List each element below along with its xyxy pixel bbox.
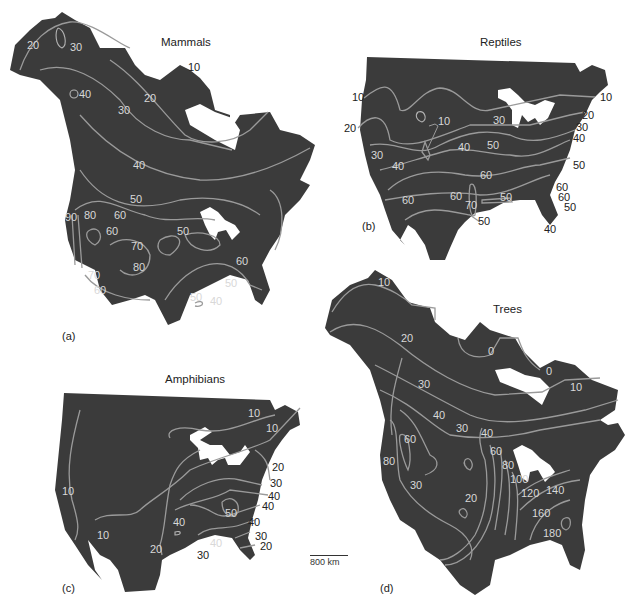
contour-label: 40 (433, 410, 445, 421)
panel-reptiles: Reptiles 10 10 20 10 30 20 30 40 30 40 4… (330, 30, 638, 270)
contour-label: 60 (404, 434, 416, 445)
contour-label: 50 (225, 508, 237, 519)
scale-bar-label: 800 km (310, 557, 350, 567)
contour-label: 20 (344, 123, 356, 134)
contour-label: 100 (510, 474, 528, 485)
contour-label: 0 (546, 366, 552, 377)
contour-label: 70 (131, 241, 143, 252)
contour-label: 50 (190, 292, 202, 303)
trees-map (300, 260, 638, 607)
contour-label: 20 (272, 462, 284, 473)
contour-label: 70 (465, 200, 477, 211)
contour-label: 70 (88, 270, 100, 281)
contour-label: 30 (270, 478, 282, 489)
contour-label: 80 (133, 262, 145, 273)
contour-label: 60 (94, 285, 106, 296)
contour-label: 10 (248, 408, 260, 419)
contour-label: 30 (456, 423, 468, 434)
contour-label: 20 (582, 110, 594, 121)
contour-label: 60 (236, 256, 248, 267)
contour-label: 50 (573, 160, 585, 171)
contour-label: 40 (481, 428, 493, 439)
contour-label: 90 (65, 212, 77, 223)
contour-label: 140 (546, 485, 564, 496)
contour-label: 30 (118, 105, 130, 116)
contour-label: 10 (188, 62, 200, 73)
contour-label: 180 (543, 528, 561, 539)
contour-label: 60 (114, 210, 126, 221)
contour-label: 20 (465, 493, 477, 504)
contour-label: 30 (371, 150, 383, 161)
north-america-landmass (325, 270, 625, 595)
contour-label: 40 (458, 142, 470, 153)
contour-label: 40 (79, 89, 91, 100)
north-america-landmass (10, 12, 315, 325)
contour-label: 60 (402, 195, 414, 206)
contour-label: 60 (490, 446, 502, 457)
contour-label: 60 (450, 191, 462, 202)
panel-label-c: (c) (62, 582, 75, 594)
contour-label: 80 (84, 210, 96, 221)
panel-amphibians: Amphibians 10 10 20 10 30 40 40 50 40 40… (0, 360, 330, 607)
panel-label-d: (d) (380, 582, 393, 594)
mammals-map (0, 0, 320, 350)
panel-label-a: (a) (62, 330, 75, 342)
panel-title-mammals: Mammals (161, 36, 211, 48)
contour-label: 40 (573, 133, 585, 144)
contour-label: 10 (97, 530, 109, 541)
contour-label: 40 (210, 296, 222, 307)
panel-title-amphibians: Amphibians (165, 373, 225, 385)
contour-label: 40 (210, 538, 222, 549)
contour-label: 10 (62, 486, 74, 497)
contour-label: 30 (70, 42, 82, 53)
contour-label: 10 (378, 277, 390, 288)
contour-label: 50 (500, 192, 512, 203)
contour-label: 60 (106, 226, 118, 237)
contour-label: 10 (352, 92, 364, 103)
contour-label: 10 (570, 382, 582, 393)
contour-label: 40 (133, 160, 145, 171)
contour-label: 120 (521, 488, 539, 499)
contour-label: 40 (262, 501, 274, 512)
contour-label: 0 (488, 346, 494, 357)
contour-label: 80 (502, 460, 514, 471)
contour-label: 20 (260, 541, 272, 552)
contour-label: 50 (225, 278, 237, 289)
contour-label: 50 (487, 140, 499, 151)
contour-label: 80 (383, 456, 395, 467)
panel-title-trees: Trees (493, 303, 522, 315)
contour-label: 60 (480, 170, 492, 181)
scale-bar: 800 km (310, 555, 350, 567)
contour-label: 10 (600, 92, 612, 103)
contour-label: 20 (27, 40, 39, 51)
us-mexico-landmass (360, 57, 608, 260)
contour-label: 40 (392, 161, 404, 172)
contour-label: 10 (266, 423, 278, 434)
contour-label: 10 (438, 116, 450, 127)
us-mexico-landmass (55, 393, 300, 592)
contour-label: 50 (564, 202, 576, 213)
contour-label: 30 (418, 379, 430, 390)
contour-label: 20 (150, 544, 162, 555)
panel-title-reptiles: Reptiles (480, 36, 522, 48)
scale-bar-line (310, 555, 348, 556)
contour-label: 40 (173, 517, 185, 528)
contour-label: 40 (544, 224, 556, 235)
contour-label: 20 (401, 333, 413, 344)
contour-label: 30 (410, 480, 422, 491)
contour-label: 160 (532, 508, 550, 519)
contour-label: 20 (144, 93, 156, 104)
panel-label-b: (b) (362, 220, 375, 232)
contour-label: 30 (197, 550, 209, 561)
panel-mammals: Mammals 20 30 10 40 20 30 40 50 90 80 60… (0, 0, 320, 350)
panel-trees: Trees 10 20 0 0 10 30 40 30 40 60 60 80 … (300, 260, 638, 607)
contour-label: 30 (493, 115, 505, 126)
contour-label: 40 (248, 517, 260, 528)
contour-label: 50 (177, 226, 189, 237)
contour-label: 50 (130, 194, 142, 205)
contour-label: 50 (478, 216, 490, 227)
